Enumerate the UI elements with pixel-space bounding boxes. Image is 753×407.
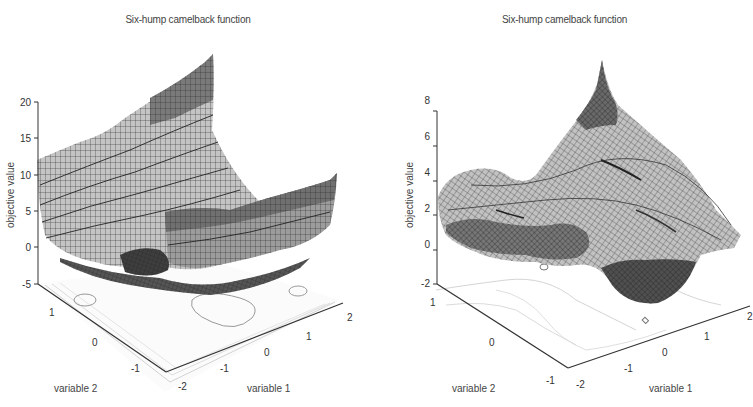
z-tick: 0 xyxy=(25,242,31,253)
y-tick: -1 xyxy=(546,375,555,386)
surface-plot-left: 20 15 10 5 0 -5 objective value 1 0 -1 v… xyxy=(0,0,376,407)
z-axis-label: objective value xyxy=(404,161,415,228)
y-tick: 0 xyxy=(92,337,98,348)
z-tick: 6 xyxy=(424,131,430,142)
x-tick: -1 xyxy=(624,363,633,374)
x-tick: -2 xyxy=(178,381,187,392)
z-tick: 5 xyxy=(25,206,31,217)
x-axis: -2 -1 0 1 2 variable 1 xyxy=(568,306,753,394)
y-axis-label: variable 2 xyxy=(452,383,496,394)
surface-mesh xyxy=(37,54,337,295)
x-tick: 1 xyxy=(306,331,312,342)
z-axis-label: objective value xyxy=(5,161,16,228)
z-axis: 20 15 10 5 0 -5 objective value xyxy=(5,97,38,290)
chart-panel-left: Six-hump camelback function xyxy=(0,0,376,407)
z-tick: 10 xyxy=(20,170,32,181)
x-tick: 0 xyxy=(264,347,270,358)
z-tick: 2 xyxy=(424,203,430,214)
x-tick: 2 xyxy=(747,311,753,322)
x-axis-label: variable 1 xyxy=(649,383,693,394)
x-tick: -1 xyxy=(220,363,229,374)
y-axis-label: variable 2 xyxy=(54,383,98,394)
chart-panel-right: Six-hump camelback function xyxy=(376,0,753,407)
z-tick: 4 xyxy=(424,167,430,178)
z-tick: 15 xyxy=(20,133,32,144)
z-axis: 8 6 4 2 0 -2 objective value xyxy=(404,95,437,289)
surface-mesh xyxy=(438,60,741,303)
y-tick: 1 xyxy=(430,297,436,308)
x-tick: 1 xyxy=(704,331,710,342)
y-tick: -1 xyxy=(131,363,140,374)
y-axis: 1 0 -1 variable 2 xyxy=(430,284,568,394)
x-tick: -2 xyxy=(576,379,585,390)
y-tick: 0 xyxy=(489,337,495,348)
surface-plot-right: 8 6 4 2 0 -2 objective value 1 0 -1 vari… xyxy=(376,0,753,407)
x-tick: 0 xyxy=(662,347,668,358)
z-tick: 8 xyxy=(424,95,430,106)
x-tick: 2 xyxy=(347,312,353,323)
floor-contours xyxy=(40,262,340,392)
z-tick: -2 xyxy=(421,278,430,289)
z-tick: 0 xyxy=(424,239,430,250)
z-tick: -5 xyxy=(22,279,31,290)
y-tick: 1 xyxy=(49,307,55,318)
x-axis-label: variable 1 xyxy=(247,383,291,394)
z-tick: 20 xyxy=(20,97,32,108)
